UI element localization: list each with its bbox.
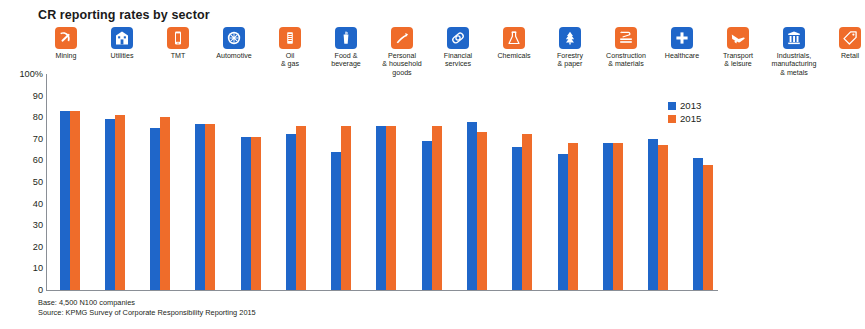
bar-2013 <box>331 152 341 290</box>
retail-icon <box>839 27 861 49</box>
legend-swatch <box>668 102 676 110</box>
legend-item: 2015 <box>668 112 724 125</box>
tmt-icon <box>167 27 189 49</box>
bar-2013 <box>558 154 568 290</box>
bar-group <box>92 74 137 290</box>
bar-2013 <box>648 139 658 290</box>
food-and-beverage-icon <box>335 27 357 49</box>
sector-label: Construction & materials <box>598 52 654 69</box>
bar-2013 <box>60 111 70 290</box>
transport-and-leisure-icon <box>727 27 749 49</box>
sector-label: Chemicals <box>486 52 542 60</box>
sector-header-retail: Retail <box>822 27 865 60</box>
y-axis-tick-label: 0 <box>38 285 43 295</box>
y-axis-tick-label: 50 <box>33 177 43 187</box>
bar-group <box>590 74 635 290</box>
y-axis-tick-label: 70 <box>33 134 43 144</box>
financial-services-icon <box>447 27 469 49</box>
sector-header-transport-and-leisure: Transport & leisure <box>710 27 766 69</box>
bar-2013 <box>422 141 432 290</box>
healthcare-icon <box>671 27 693 49</box>
sector-label: Retail <box>822 52 865 60</box>
bars-area <box>47 74 726 290</box>
automotive-icon <box>223 27 245 49</box>
sector-header-personal-and-household-goods: Personal & household goods <box>374 27 430 77</box>
sector-label: Food & beverage <box>318 52 374 69</box>
y-axis-tick-label: 80 <box>33 112 43 122</box>
bar-2015 <box>205 124 215 290</box>
bar-2013 <box>376 126 386 290</box>
bar-2015 <box>70 111 80 290</box>
bar-group <box>228 74 273 290</box>
y-axis-tick-label: 90 <box>33 91 43 101</box>
sector-label: Financial services <box>430 52 486 69</box>
y-axis-tick-label: 40 <box>33 199 43 209</box>
bar-2013 <box>286 134 296 290</box>
sector-header-oil-and-gas: Oil & gas <box>262 27 318 69</box>
sector-header-mining: Mining <box>38 27 94 60</box>
bar-group <box>319 74 364 290</box>
legend-label: 2013 <box>680 100 701 111</box>
sector-header-food-and-beverage: Food & beverage <box>318 27 374 69</box>
sector-header-tmt: TMT <box>150 27 206 60</box>
sector-label: Oil & gas <box>262 52 318 69</box>
x-axis-line <box>46 290 718 291</box>
sector-header-forestry-and-paper: Forestry & paper <box>542 27 598 69</box>
chart-title: CR reporting rates by sector <box>38 8 210 22</box>
mining-icon <box>55 27 77 49</box>
plot-area: 100%9080706050403020100 <box>0 72 727 294</box>
bar-2013 <box>150 128 160 290</box>
y-axis-tick-label: 100% <box>20 69 44 79</box>
footer-base-line: Base: 4,500 N100 companies <box>38 298 256 308</box>
y-axis-tick-label: 60 <box>33 155 43 165</box>
sector-label: Automotive <box>206 52 262 60</box>
sector-label: Forestry & paper <box>542 52 598 69</box>
chart-legend: 20132015 <box>668 99 724 125</box>
bar-group <box>545 74 590 290</box>
bar-2015 <box>296 126 306 290</box>
bar-2015 <box>477 132 487 290</box>
bar-group <box>454 74 499 290</box>
bar-2013 <box>693 158 703 290</box>
bar-2015 <box>568 143 578 290</box>
sector-header-industrials-manufacturing-and-metals: Industrials, manufacturing & metals <box>766 27 822 77</box>
sector-header-chemicals: Chemicals <box>486 27 542 60</box>
bar-2015 <box>251 137 261 290</box>
footer-source-line: Source: KPMG Survey of Corporate Respons… <box>38 308 256 318</box>
bar-group <box>183 74 228 290</box>
bar-2015 <box>522 134 532 290</box>
bar-2015 <box>613 143 623 290</box>
y-axis-tick-label: 20 <box>33 242 43 252</box>
bar-2013 <box>512 147 522 290</box>
bar-2015 <box>341 126 351 290</box>
sector-label: Healthcare <box>654 52 710 60</box>
personal-and-household-goods-icon <box>391 27 413 49</box>
sector-label: TMT <box>150 52 206 60</box>
bar-2013 <box>603 143 613 290</box>
sector-header-utilities: Utilities <box>94 27 150 60</box>
bar-2013 <box>195 124 205 290</box>
bar-2015 <box>386 126 396 290</box>
bar-2013 <box>105 119 115 290</box>
sector-label: Transport & leisure <box>710 52 766 69</box>
utilities-icon <box>111 27 133 49</box>
legend-item: 2013 <box>668 99 724 112</box>
bar-group <box>138 74 183 290</box>
bar-2015 <box>432 126 442 290</box>
oil-and-gas-icon <box>279 27 301 49</box>
bar-2015 <box>658 145 668 290</box>
sector-label: Utilities <box>94 52 150 60</box>
legend-label: 2015 <box>680 113 701 124</box>
chemicals-icon <box>503 27 525 49</box>
forestry-and-paper-icon <box>559 27 581 49</box>
bar-group <box>364 74 409 290</box>
bar-2013 <box>467 122 477 290</box>
bar-group <box>47 74 92 290</box>
legend-swatch <box>668 115 676 123</box>
bar-2015 <box>160 117 170 290</box>
chart-footer: Base: 4,500 N100 companies Source: KPMG … <box>38 298 256 318</box>
sector-label: Mining <box>38 52 94 60</box>
construction-and-materials-icon <box>615 27 637 49</box>
y-axis-tick-label: 30 <box>33 220 43 230</box>
